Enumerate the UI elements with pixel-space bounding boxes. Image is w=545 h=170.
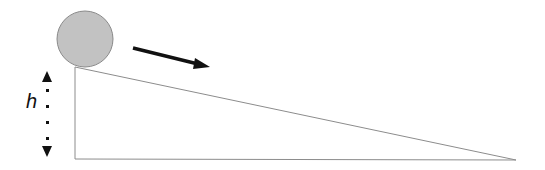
height-indicator	[42, 71, 52, 157]
arrow-down-icon	[42, 146, 52, 157]
incline-diagram: h	[0, 0, 545, 170]
ball	[57, 11, 113, 67]
height-label: h	[26, 90, 37, 112]
arrow-up-icon	[42, 71, 52, 82]
motion-arrow-icon	[133, 48, 210, 69]
inclined-plane	[75, 67, 516, 160]
